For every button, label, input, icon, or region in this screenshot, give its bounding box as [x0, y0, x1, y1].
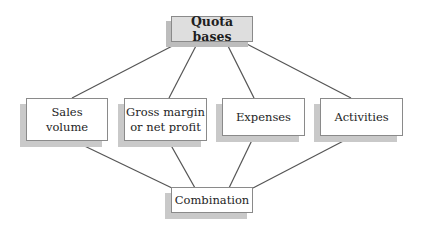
edge-root-sales-volume [72, 42, 180, 98]
combination-node: Combination [171, 187, 253, 213]
activities-label: Activities [334, 110, 388, 125]
edge-root-activities [243, 42, 351, 98]
edge-sales-volume-combination [72, 140, 172, 188]
gross-margin-label: Gross margin or net profit [126, 105, 205, 135]
expenses-label: Expenses [236, 110, 291, 125]
sales-volume-node: Sales volume [26, 98, 108, 141]
edge-expenses-combination [229, 136, 254, 188]
expenses-node: Expenses [222, 98, 305, 136]
quota-bases-label: Quota bases [172, 14, 252, 44]
combination-label: Combination [175, 193, 250, 208]
edge-root-expenses [226, 42, 254, 98]
edge-gross-margin-combination [168, 140, 195, 188]
gross-margin-node: Gross margin or net profit [124, 98, 207, 141]
edge-root-gross-margin [169, 42, 198, 98]
activities-node: Activities [320, 98, 403, 136]
edge-activities-combination [253, 136, 353, 188]
quota-bases-node: Quota bases [171, 16, 253, 42]
sales-volume-label: Sales volume [46, 105, 88, 135]
